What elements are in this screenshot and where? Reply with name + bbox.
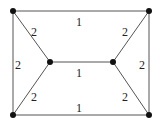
edge-tr-mr (113, 11, 149, 62)
weight-tl-ml: 2 (31, 25, 37, 39)
weight-ml-mr: 1 (76, 66, 82, 80)
weight-tr-mr: 2 (122, 25, 128, 39)
weight-tl-tr: 1 (76, 15, 82, 29)
weight-bl-br: 1 (76, 101, 82, 115)
node-br (146, 112, 152, 118)
weight-tr-br: 2 (139, 58, 145, 72)
weighted-graph: 1 2 2 2 2 1 2 2 1 (0, 0, 160, 127)
node-bl (10, 112, 16, 118)
weight-tl-bl: 2 (15, 58, 21, 72)
weight-mr-br: 2 (122, 90, 128, 104)
node-tl (10, 8, 16, 14)
node-tr (146, 8, 152, 14)
node-mr (110, 59, 116, 65)
node-ml (47, 59, 53, 65)
weight-ml-bl: 2 (31, 90, 37, 104)
edge-labels: 1 2 2 2 2 1 2 2 1 (15, 15, 145, 115)
